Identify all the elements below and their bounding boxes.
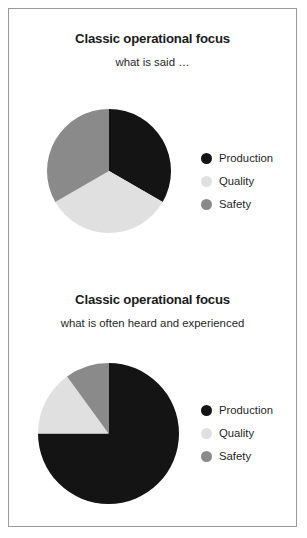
pie-chart-bottom xyxy=(38,363,179,504)
pie-svg-top xyxy=(47,109,171,233)
legend-swatch-production-icon xyxy=(201,405,212,416)
chart-subtitle: what is said … xyxy=(9,55,296,70)
page-title: Classic operational focus xyxy=(9,31,296,47)
legend-item-safety[interactable]: Safety xyxy=(201,193,273,216)
chart-panel-bottom: Classic operational focus what is often … xyxy=(9,271,296,528)
legend-bottom: Production Quality Safety xyxy=(201,399,273,468)
chart-panel-top: Classic operational focus what is said …… xyxy=(9,9,296,271)
legend-label-production: Production xyxy=(219,152,273,165)
document-frame: Classic operational focus what is said …… xyxy=(8,8,297,527)
legend-swatch-production-icon xyxy=(201,153,212,164)
legend-label-safety: Safety xyxy=(219,450,251,463)
legend-item-safety[interactable]: Safety xyxy=(201,445,273,468)
legend-item-production[interactable]: Production xyxy=(201,147,273,170)
pie-chart-top xyxy=(47,109,171,233)
legend-label-quality: Quality xyxy=(219,175,254,188)
legend-swatch-quality-icon xyxy=(201,176,212,187)
legend-swatch-safety-icon xyxy=(201,451,212,462)
legend-label-quality: Quality xyxy=(219,427,254,440)
chart-subtitle-secondary: what is often heard and experienced xyxy=(9,316,296,331)
legend-label-production: Production xyxy=(219,404,273,417)
pie-svg-bottom xyxy=(38,363,179,504)
legend-swatch-safety-icon xyxy=(201,199,212,210)
page-title-secondary: Classic operational focus xyxy=(9,292,296,308)
legend-item-production[interactable]: Production xyxy=(201,399,273,422)
legend-item-quality[interactable]: Quality xyxy=(201,422,273,445)
legend-label-safety: Safety xyxy=(219,198,251,211)
legend-swatch-quality-icon xyxy=(201,428,212,439)
legend-item-quality[interactable]: Quality xyxy=(201,170,273,193)
legend-top: Production Quality Safety xyxy=(201,147,273,216)
